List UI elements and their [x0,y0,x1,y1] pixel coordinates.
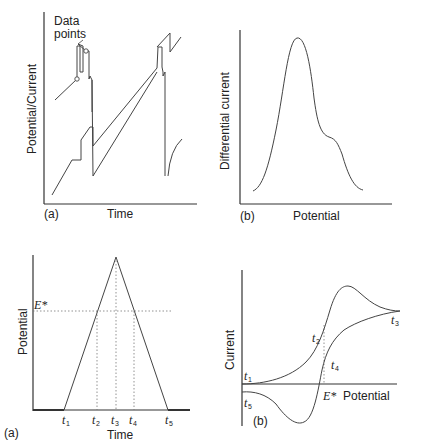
svg-text:3: 3 [115,420,119,427]
pulse-waveform-lower [52,68,157,195]
forward-scan-curve [242,286,400,384]
tick-t4: t 4 [129,413,137,427]
point-t2: t 2 [312,331,320,345]
annotation-data-points-line1: Data [54,14,80,28]
svg-text:2: 2 [96,420,100,427]
data-point-marker [84,49,88,53]
differential-current-curve [253,38,363,191]
point-t1: t 1 [244,369,252,383]
pulse-waveform-upper [55,44,92,112]
point-t3: t 3 [391,313,399,327]
x-axis-label: Time [107,428,134,442]
svg-text:2: 2 [316,338,320,345]
point-t5: t 5 [244,396,252,410]
svg-text:1: 1 [66,420,70,427]
panel-label: (b) [253,414,268,428]
y-axis-label: Current [223,329,237,370]
tick-t3: t 3 [111,413,119,427]
pulse-waveform-right [157,47,165,176]
panel-bottom-right: t 1 t 2 t 3 t 4 t 5 E* Potential Current… [223,270,400,428]
x-axis-label: Time [107,207,134,221]
panel-top-left: Data points Potential/Current (a) Time [25,12,197,221]
panel-label: (b) [240,209,255,223]
annotation-data-points-line2: points [54,27,86,41]
point-t4: t 4 [331,358,339,372]
x-axis-label: Potential [293,209,340,223]
e-star-label: E* [33,298,47,312]
panel-top-right: Differential current (b) Potential [218,30,392,223]
reverse-scan-curve [242,311,400,423]
pulse-waveform-right-top [157,33,181,52]
svg-text:4: 4 [335,365,339,372]
pulse-waveform-tail [168,139,182,176]
y-axis-label: Potential/Current [25,63,39,154]
svg-text:5: 5 [248,403,252,410]
y-axis-label: Potential [16,308,30,355]
pulse-waveform-ramp [93,72,157,176]
svg-text:1: 1 [248,376,252,383]
e-star-label: E* [322,389,336,403]
x-axis-label: Potential [343,389,390,403]
tick-t2: t 2 [92,413,100,427]
svg-text:5: 5 [169,420,173,427]
data-point-marker [75,77,79,81]
svg-text:3: 3 [395,320,399,327]
y-axis-label: Differential current [218,72,232,170]
tick-t1: t 1 [62,413,70,427]
panel-label: (a) [44,207,59,221]
panel-label: (a) [4,426,19,440]
svg-text:4: 4 [133,420,137,427]
tick-t5: t 5 [165,413,173,427]
figure-canvas: Data points Potential/Current (a) Time D… [0,0,430,445]
panel-bottom-left: E* t 1 t 2 t 3 t 4 t 5 Potential (a) Tim… [4,255,190,442]
